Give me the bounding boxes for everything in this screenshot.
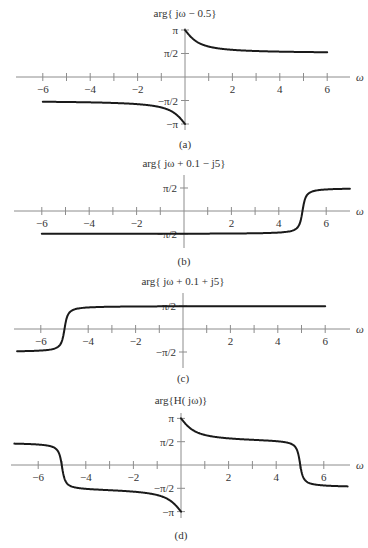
- phase-plots: −6−4−2246ππ/2−π/2−πωarg{ jω − 0.5}(a)−6−…: [0, 0, 368, 548]
- chart-d-x-tick-label: −2: [128, 471, 140, 483]
- chart-a-x-tick-label: −4: [84, 83, 96, 95]
- chart-a-y-tick-label: −π/2: [158, 95, 178, 107]
- chart-d-x-tick-label: 6: [321, 471, 327, 483]
- chart-c-x-tick-label: −4: [82, 335, 94, 347]
- chart-c-title: arg{ jω + 0.1 + j5}: [141, 275, 224, 287]
- chart-c-x-axis-label: ω: [356, 323, 364, 335]
- chart-a-y-tick-label: π/2: [164, 47, 178, 59]
- chart-d-caption: (d): [175, 529, 188, 542]
- chart-a-x-tick-label: −2: [132, 83, 144, 95]
- chart-a-x-tick-label: 6: [324, 83, 330, 95]
- chart-b-caption: (b): [178, 255, 191, 268]
- chart-a-y-tick-label: −π: [166, 118, 178, 130]
- chart-a-x-tick-label: 4: [277, 83, 283, 95]
- chart-b-x-axis-label: ω: [356, 205, 364, 217]
- chart-d-x-tick-label: −4: [80, 471, 92, 483]
- chart-c-x-tick-label: 2: [228, 335, 234, 347]
- chart-c-x-tick-label: −6: [35, 335, 47, 347]
- chart-c-x-tick-label: 6: [322, 335, 328, 347]
- chart-b-x-tick-label: 4: [276, 217, 282, 229]
- chart-d-y-tick-label: π/2: [160, 436, 174, 448]
- chart-d-y-tick-label: −π/2: [154, 482, 174, 494]
- chart-b-y-tick-label: π/2: [163, 182, 177, 194]
- chart-c-y-tick-label: −π/2: [156, 346, 176, 358]
- chart-d-x-tick-label: −6: [32, 471, 44, 483]
- chart-d-x-tick-label: 2: [226, 471, 232, 483]
- chart-d-x-tick-label: 4: [273, 471, 279, 483]
- chart-b-x-tick-label: 2: [229, 217, 235, 229]
- chart-b-title: arg{ jω + 0.1 − j5}: [142, 157, 225, 169]
- chart-a-y-tick-label: π: [172, 24, 178, 36]
- chart-a-title: arg{ jω − 0.5}: [154, 7, 217, 19]
- chart-d-y-tick-label: −π: [162, 506, 174, 518]
- chart-a-caption: (a): [179, 138, 192, 151]
- chart-c-x-tick-label: −2: [130, 335, 142, 347]
- chart-a-x-tick-label: 2: [230, 83, 236, 95]
- chart-a-x-axis-label: ω: [356, 71, 364, 83]
- chart-c-x-tick-label: 4: [275, 335, 281, 347]
- chart-d-y-tick-label: π: [168, 412, 174, 424]
- chart-d-title: arg{H( jω)}: [155, 394, 208, 407]
- chart-b-x-tick-label: 6: [323, 217, 329, 229]
- chart-c-caption: (c): [177, 372, 190, 385]
- chart-a-x-tick-label: −6: [37, 83, 49, 95]
- chart-b-x-tick-label: −6: [36, 217, 48, 229]
- chart-b-x-tick-label: −2: [131, 217, 143, 229]
- chart-b-x-tick-label: −4: [83, 217, 95, 229]
- chart-d-x-axis-label: ω: [356, 459, 364, 471]
- chart-a-curve-segment-2: [185, 30, 327, 52]
